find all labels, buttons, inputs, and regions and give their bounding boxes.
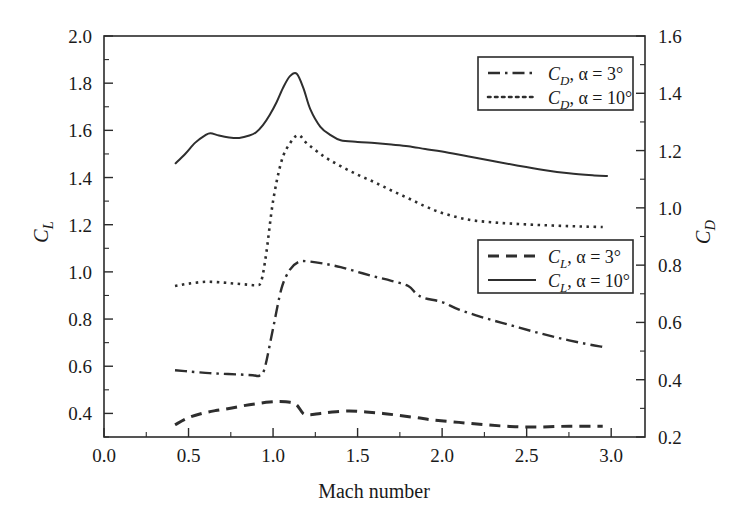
x-tick-label: 0.0	[92, 445, 116, 466]
x-axis-title: Mach number	[318, 480, 430, 502]
x-tick-label: 1.5	[346, 445, 370, 466]
legend-drag: CD, α = 3°CD, α = 10°	[478, 57, 633, 112]
y-right-tick-label: 0.4	[658, 370, 682, 391]
x-tick-label: 1.0	[261, 445, 285, 466]
y-left-tick-label: 0.6	[68, 356, 92, 377]
y-left-tick-label: 1.4	[68, 168, 92, 189]
y-left-tick-label: 1.6	[68, 120, 92, 141]
y-left-tick-label: 1.0	[68, 262, 92, 283]
y-right-tick-label: 1.2	[658, 141, 682, 162]
y-right-tick-label: 0.8	[658, 255, 682, 276]
y-right-tick-label: 0.6	[658, 312, 682, 333]
chart-figure: 0.00.51.01.52.02.53.0 0.40.60.81.01.21.4…	[0, 0, 741, 514]
y-left-tick-label: 0.4	[68, 403, 92, 424]
y-left-tick-label: 1.8	[68, 73, 92, 94]
y-right-tick-label: 1.0	[658, 198, 682, 219]
x-tick-label: 0.5	[177, 445, 201, 466]
x-tick-label: 3.0	[599, 445, 623, 466]
chart-canvas: 0.00.51.01.52.02.53.0 0.40.60.81.01.21.4…	[0, 0, 741, 514]
y-right-tick-label: 0.2	[658, 427, 682, 448]
y-left-tick-label: 2.0	[68, 26, 92, 47]
y-right-tick-label: 1.6	[658, 26, 682, 47]
y-right-tick-label: 1.4	[658, 83, 682, 104]
y-left-tick-label: 0.8	[68, 309, 92, 330]
y-left-tick-label: 1.2	[68, 215, 92, 236]
x-tick-label: 2.0	[430, 445, 454, 466]
y-axis-left-tick-labels: 0.40.60.81.01.21.41.61.82.0	[68, 26, 92, 424]
x-tick-label: 2.5	[515, 445, 539, 466]
legend-lift: CL, α = 3°CL, α = 10°	[478, 240, 633, 295]
